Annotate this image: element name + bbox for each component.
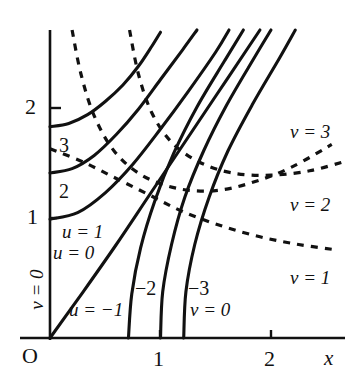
y-tick-label-2: 2 — [25, 96, 36, 118]
y-tick-label-1: 1 — [27, 206, 38, 228]
curve-v-2-dashed — [130, 30, 343, 175]
x-tick-label-1: 1 — [153, 348, 164, 370]
v-curve-label-2: v = 2 — [290, 195, 330, 214]
v-curve-label-0-axis: v = 0 — [27, 262, 46, 318]
u-curve-label-minus-1: u = −1 — [69, 300, 123, 319]
curve-v-3-dashed — [72, 30, 332, 191]
u-curve-label-2: 2 — [59, 181, 69, 201]
v-curve-label-3: v = 3 — [290, 122, 330, 141]
v-curve-label-0-bottom: v = 0 — [190, 300, 230, 319]
conformal-map-figure — [0, 0, 350, 381]
u-curve-label-minus-2: −2 — [135, 278, 156, 298]
u-curve-label-3: 3 — [59, 135, 69, 155]
u-curves-group — [50, 30, 295, 338]
u-curve-label-0: u = 0 — [53, 243, 94, 262]
curve-u-3 — [50, 32, 161, 127]
origin-label: O — [22, 345, 38, 367]
v-curve-label-1: v = 1 — [290, 268, 330, 287]
u-curve-label-minus-3: −3 — [188, 278, 209, 298]
u-curve-label-1: u = 1 — [62, 222, 103, 241]
x-axis-label: x — [324, 348, 333, 369]
x-tick-label-2: 2 — [264, 348, 275, 370]
